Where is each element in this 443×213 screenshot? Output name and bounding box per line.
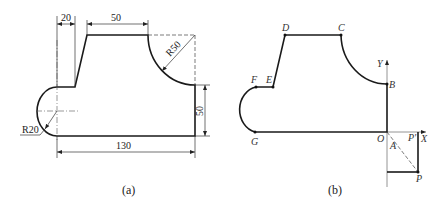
label-e: E	[265, 74, 272, 85]
part-profile-b	[240, 35, 387, 132]
point-c	[340, 34, 343, 37]
caption-a: (a)	[122, 183, 135, 197]
label-p: P	[415, 173, 422, 184]
leader-r20	[45, 111, 57, 129]
dim-50-right: 50	[194, 106, 205, 116]
dim-130: 130	[116, 140, 131, 151]
figure-a: 20 50 R50 50 R20 130 (a)	[20, 12, 210, 197]
caption-b: (b)	[328, 183, 342, 197]
label-d: D	[281, 22, 290, 33]
technical-drawing: 20 50 R50 50 R20 130 (a)	[0, 0, 443, 213]
label-o: O	[377, 133, 384, 144]
point-g	[254, 131, 257, 134]
dim-r20: R20	[22, 124, 39, 135]
label-f: F	[250, 74, 258, 85]
label-c: C	[338, 22, 345, 33]
dim-50-top: 50	[111, 12, 121, 23]
dim-r50: R50	[163, 39, 182, 59]
label-a: A	[389, 140, 397, 151]
label-p-prime: P'	[407, 132, 417, 143]
point-e	[272, 86, 275, 89]
figure-b: D C F E B Y G O P' X A P (b)	[240, 22, 428, 197]
label-b: B	[389, 79, 395, 90]
label-y-axis: Y	[377, 58, 384, 69]
point-d	[284, 34, 287, 37]
point-f	[255, 86, 258, 89]
label-x-axis: X	[420, 133, 428, 144]
dim-20: 20	[61, 12, 71, 23]
label-g: G	[251, 136, 258, 147]
